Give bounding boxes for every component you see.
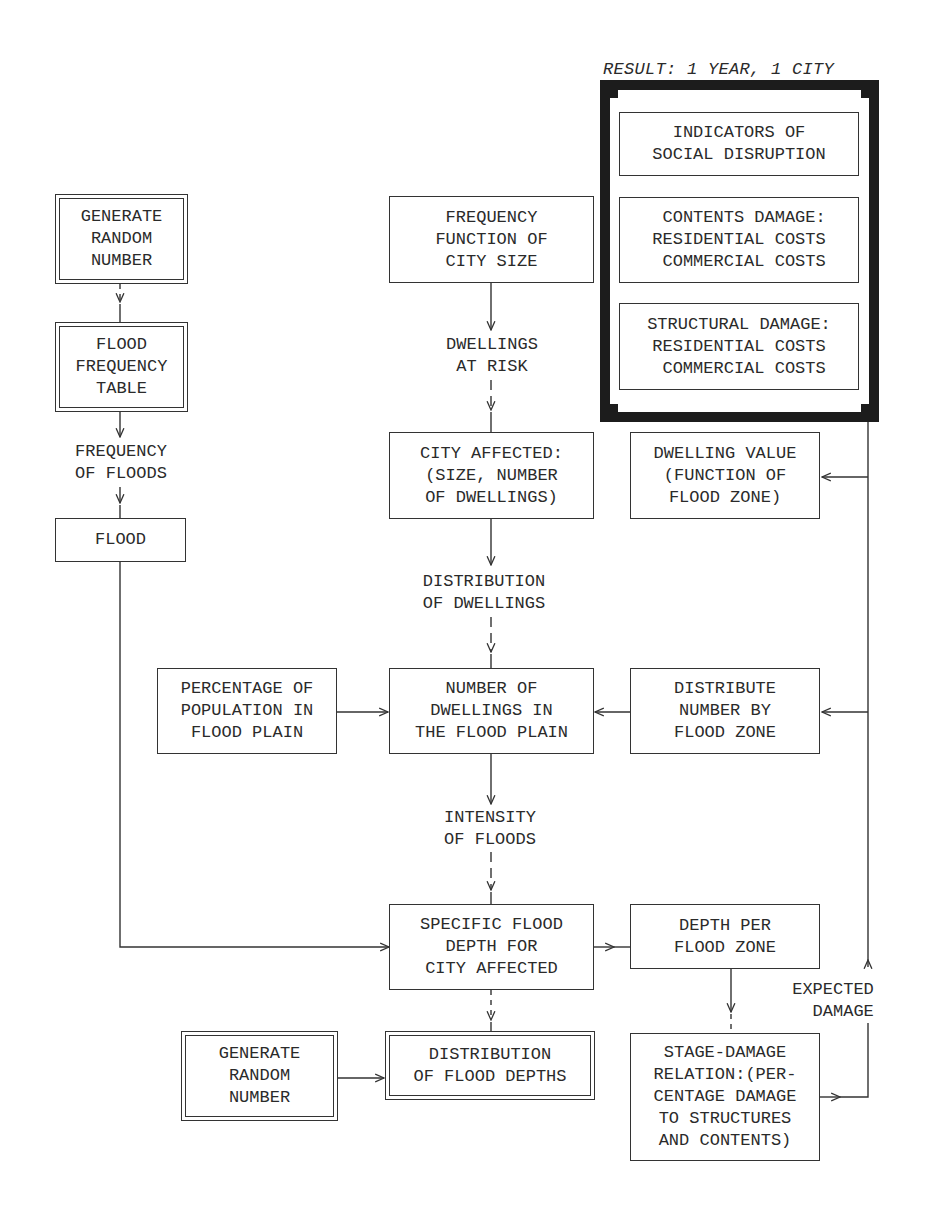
frame-corner	[861, 90, 869, 98]
expected-damage-label: EXPECTED DAMAGE	[792, 979, 874, 1023]
frame-corner	[610, 90, 618, 98]
social-disruption-box: INDICATORS OF SOCIAL DISRUPTION	[619, 112, 859, 176]
generate-random-number-box: GENERATE RANDOM NUMBER	[55, 194, 188, 284]
flood-frequency-table-box: FLOOD FREQUENCY TABLE	[55, 322, 188, 412]
number-of-dwellings-box: NUMBER OF DWELLINGS IN THE FLOOD PLAIN	[389, 668, 594, 754]
depth-per-zone-box: DEPTH PER FLOOD ZONE	[630, 904, 820, 969]
frequency-of-floods-label: FREQUENCY OF FLOODS	[75, 441, 167, 485]
percentage-population-box: PERCENTAGE OF POPULATION IN FLOOD PLAIN	[157, 668, 337, 754]
contents-damage-box: CONTENTS DAMAGE: RESIDENTIAL COSTS COMME…	[619, 197, 859, 283]
intensity-of-floods-label: INTENSITY OF FLOODS	[444, 807, 536, 851]
frame-corner	[610, 404, 618, 412]
frequency-function-box: FREQUENCY FUNCTION OF CITY SIZE	[389, 196, 594, 283]
distribution-of-flood-depths-box: DISTRIBUTION OF FLOOD DEPTHS	[385, 1031, 595, 1100]
city-affected-box: CITY AFFECTED: (SIZE, NUMBER OF DWELLING…	[389, 432, 594, 519]
frame-corner	[861, 404, 869, 412]
dwellings-at-risk-label: DWELLINGS AT RISK	[446, 334, 538, 378]
generate-random-number-bottom-box: GENERATE RANDOM NUMBER	[181, 1031, 338, 1121]
structural-damage-box: STRUCTURAL DAMAGE: RESIDENTIAL COSTS COM…	[619, 303, 859, 390]
result-panel-title: RESULT: 1 YEAR, 1 CITY	[603, 60, 834, 79]
dwelling-value-box: DWELLING VALUE (FUNCTION OF FLOOD ZONE)	[630, 432, 820, 519]
flood-box: FLOOD	[55, 518, 186, 562]
specific-flood-depth-box: SPECIFIC FLOOD DEPTH FOR CITY AFFECTED	[389, 904, 594, 990]
distribution-of-dwellings-label: DISTRIBUTION OF DWELLINGS	[423, 571, 545, 615]
stage-damage-box: STAGE-DAMAGE RELATION:(PER- CENTAGE DAMA…	[630, 1033, 820, 1161]
distribute-number-box: DISTRIBUTE NUMBER BY FLOOD ZONE	[630, 668, 820, 754]
